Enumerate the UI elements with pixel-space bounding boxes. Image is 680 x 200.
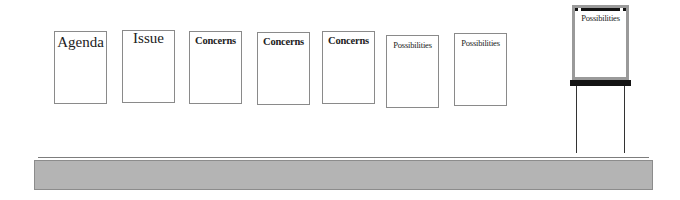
flip-chart-tray [570, 80, 631, 86]
sheet-concerns-2: Concerns [257, 32, 310, 105]
sheet-label: Issue [123, 31, 174, 46]
sheet-agenda: Agenda [54, 31, 107, 104]
sheet-label: Possibilities [387, 36, 438, 50]
flip-chart-paper: Possibilities [575, 8, 626, 77]
sheet-label: Concerns [323, 32, 374, 47]
clip-icon [620, 8, 623, 11]
clip-icon [578, 8, 581, 11]
sheet-concerns-1: Concerns [189, 31, 242, 104]
sheet-possibilities-2: Possibilities [454, 33, 507, 106]
sheet-label: Possibilities [455, 34, 506, 48]
flip-chart-label: Possibilities [575, 11, 626, 23]
sheet-label: Concerns [258, 33, 309, 48]
easel-leg-right [624, 86, 625, 153]
table-body [34, 160, 653, 190]
sheet-issue: Issue [122, 30, 175, 103]
flip-chart-frame: Possibilities [572, 5, 629, 80]
easel-leg-left [576, 86, 577, 153]
sheet-label: Concerns [190, 32, 241, 47]
table-top-edge [38, 157, 649, 158]
sheet-label: Agenda [55, 32, 106, 50]
sheet-concerns-3: Concerns [322, 31, 375, 104]
sheet-possibilities-1: Possibilities [386, 35, 439, 108]
